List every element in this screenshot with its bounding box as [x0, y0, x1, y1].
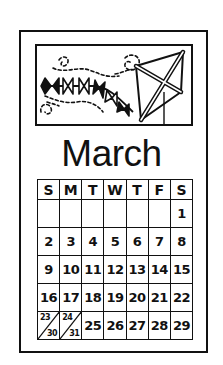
weekday-wednesday: W — [104, 180, 126, 200]
day-cell — [148, 200, 170, 228]
weekday-saturday: S — [170, 180, 192, 200]
day-cell: 17 — [60, 284, 82, 312]
day-cell: 5 — [104, 228, 126, 256]
day-cell: 13 — [126, 256, 148, 284]
day-cell: 10 — [60, 256, 82, 284]
kite-illustration — [35, 44, 193, 126]
day-cell: 26 — [104, 312, 126, 340]
split-day-cell: 24 31 — [60, 312, 82, 340]
day-cell: 7 — [148, 228, 170, 256]
day-cell: 20 — [126, 284, 148, 312]
day-cell: 2 — [38, 228, 60, 256]
week-row: 16 17 18 19 20 21 22 — [38, 284, 193, 312]
day-cell — [82, 200, 104, 228]
split-cell-23-30: 23 30 — [38, 312, 59, 339]
day-cell: 3 — [60, 228, 82, 256]
weekday-tuesday: T — [82, 180, 104, 200]
week-row: 1 — [38, 200, 193, 228]
day-cell: 11 — [82, 256, 104, 284]
day-cell — [126, 200, 148, 228]
day-cell: 18 — [82, 284, 104, 312]
split-day-cell: 23 30 — [38, 312, 60, 340]
day-cell — [60, 200, 82, 228]
weekday-thursday: T — [126, 180, 148, 200]
week-row: 2 3 4 5 6 7 8 — [38, 228, 193, 256]
day-cell: 27 — [126, 312, 148, 340]
weekday-header-row: S M T W T F S — [38, 180, 193, 200]
day-cell: 19 — [104, 284, 126, 312]
month-title: March — [0, 133, 223, 175]
day-cell: 1 — [170, 200, 192, 228]
split-top-date: 24 — [62, 313, 72, 322]
calendar-grid: S M T W T F S 1 2 3 4 5 6 7 8 9 — [37, 179, 193, 340]
weekday-monday: M — [60, 180, 82, 200]
day-cell: 14 — [148, 256, 170, 284]
weekday-sunday: S — [38, 180, 60, 200]
split-bottom-date: 31 — [69, 329, 79, 338]
day-cell: 15 — [170, 256, 192, 284]
day-cell: 16 — [38, 284, 60, 312]
kite-icon — [37, 46, 191, 124]
day-cell: 22 — [170, 284, 192, 312]
split-cell-24-31: 24 31 — [60, 312, 81, 339]
day-cell: 25 — [82, 312, 104, 340]
day-cell: 12 — [104, 256, 126, 284]
day-cell — [38, 200, 60, 228]
day-cell: 8 — [170, 228, 192, 256]
week-row: 23 30 24 31 25 26 27 28 29 — [38, 312, 193, 340]
day-cell: 21 — [148, 284, 170, 312]
weekday-friday: F — [148, 180, 170, 200]
day-cell — [104, 200, 126, 228]
week-row: 9 10 11 12 13 14 15 — [38, 256, 193, 284]
day-cell: 9 — [38, 256, 60, 284]
day-cell: 6 — [126, 228, 148, 256]
day-cell: 28 — [148, 312, 170, 340]
split-top-date: 23 — [40, 313, 50, 322]
split-bottom-date: 30 — [47, 329, 57, 338]
day-cell: 29 — [170, 312, 192, 340]
day-cell: 4 — [82, 228, 104, 256]
